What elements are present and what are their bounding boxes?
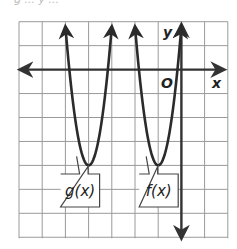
label-callout-g: g(x) [61, 156, 100, 207]
label-f: f(x) [146, 182, 172, 200]
graph-figure: g ... y ... g(x)f(x) y O x [0, 0, 237, 249]
clipped-caption-text: g ... y ... [14, 0, 59, 6]
curves [65, 26, 181, 165]
label-g: g(x) [65, 182, 95, 200]
curve-f-right-branch [158, 26, 181, 165]
axes [20, 25, 224, 239]
origin-label: O [161, 75, 173, 91]
y-axis-label: y [163, 24, 173, 40]
curve-g-right-branch [89, 26, 112, 165]
clipped-caption: g ... y ... [0, 0, 237, 10]
coordinate-plane: g(x)f(x) y O x [0, 0, 237, 249]
x-axis-label: x [211, 75, 222, 91]
curve-g-left-branch [65, 26, 88, 165]
grid-lines [19, 22, 228, 239]
curve-f-left-branch [135, 26, 158, 165]
